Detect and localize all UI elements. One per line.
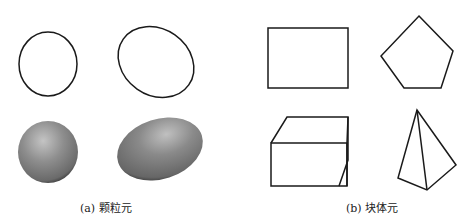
tetrahedron-shape: [398, 110, 456, 190]
ellipse-outline-shape: [104, 12, 207, 112]
caption-panel-b: (b) 块体元: [346, 199, 398, 215]
panel-b: [268, 16, 456, 190]
caption-panel-a: (a) 颗粒元: [80, 199, 132, 215]
sphere-shaded-shape: [18, 121, 78, 183]
circle-outline-shape: [19, 32, 77, 96]
cube-shape: [271, 117, 348, 186]
ellipsoid-shaded-shape: [109, 107, 211, 191]
pentagon-shape: [381, 16, 453, 88]
panel-a: [18, 12, 211, 191]
figure-canvas: [0, 0, 473, 222]
rectangle-shape: [268, 28, 348, 88]
